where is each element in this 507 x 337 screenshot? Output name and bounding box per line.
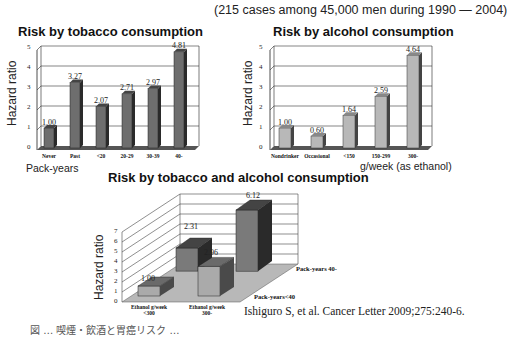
y-tick: 1	[259, 123, 263, 131]
y-tick: 4	[114, 257, 118, 265]
category-line: 300-	[185, 310, 229, 316]
bar-occasional	[311, 133, 326, 148]
bar-20-29	[122, 91, 135, 148]
series-label-pack-years-40plus: Pack-years 40-	[296, 265, 337, 272]
y-axis-label-tobacco: Hazard ratio	[5, 61, 19, 126]
y-tick: 1	[27, 123, 31, 131]
bar-30-39	[148, 86, 161, 148]
chart-title-alcohol: Risk by alcohol consumption	[273, 24, 454, 39]
y-tick: 2	[259, 103, 263, 111]
plot-area-tobacco	[33, 44, 203, 154]
category-label: 150-299	[366, 153, 396, 159]
bar-150-299	[375, 93, 390, 148]
y-axis-label-combined: Hazard ratio	[92, 235, 106, 300]
y-tick: 5	[259, 43, 263, 51]
value-label: 3.27	[60, 72, 90, 81]
citation: Ishiguro S, et al. Cancer Letter 2009;27…	[244, 305, 465, 317]
y-tick: 0	[114, 297, 118, 305]
y-tick: 0	[27, 143, 31, 151]
category-label: Ethanol g/week <300	[127, 304, 171, 316]
y-tick: 6	[114, 237, 118, 245]
bar-py40-eth-300plus	[236, 200, 272, 271]
bar-nondrinker	[279, 125, 294, 148]
y-axis-label-alcohol: Hazard ratio	[241, 61, 255, 126]
value-label: 2.07	[86, 96, 116, 105]
category-label: 40-	[164, 153, 194, 159]
value-label: 2.31	[176, 222, 206, 231]
bar-40plus	[174, 49, 187, 148]
y-tick: 4	[27, 63, 31, 71]
value-label: 2.96	[196, 248, 226, 257]
bar-lt150	[343, 112, 358, 148]
value-label: 1.64	[334, 105, 364, 114]
y-tick: 3	[114, 267, 118, 275]
bar-never	[44, 125, 57, 148]
plot-area-alcohol	[266, 44, 436, 154]
y-tick: 3	[27, 83, 31, 91]
value-label: 1.00	[270, 118, 300, 127]
bar-pylt40-eth-300plus	[198, 257, 234, 296]
category-line: <300	[127, 310, 171, 316]
y-tick: 3	[259, 83, 263, 91]
x-axis-label-tobacco: Pack-years	[26, 162, 79, 174]
y-tick: 7	[114, 227, 118, 235]
value-label: 1.00	[34, 118, 64, 127]
x-axis-label-alcohol: g/week (as ethanol)	[360, 160, 452, 172]
value-label: 1.00	[133, 274, 163, 283]
chart-title-tobacco: Risk by tobacco consumption	[18, 24, 203, 39]
y-tick: 0	[259, 143, 263, 151]
value-label: 4.64	[398, 45, 428, 54]
bar-300plus	[407, 52, 422, 148]
y-tick: 5	[114, 247, 118, 255]
bar-lt20	[96, 104, 109, 148]
value-label: 2.97	[138, 78, 168, 87]
bar-past	[70, 80, 83, 148]
study-note: (215 cases among 45,000 men during 1990 …	[214, 3, 507, 17]
series-label-pack-years-lt40: Pack-years<40	[254, 293, 295, 300]
y-tick: 1	[114, 287, 118, 295]
y-tick: 4	[259, 63, 263, 71]
value-label: 2.59	[366, 86, 396, 95]
y-tick: 2	[114, 277, 118, 285]
chart-title-combined: Risk by tobacco and alcohol consumption	[108, 170, 369, 185]
category-label: Occasional	[302, 153, 332, 159]
value-label: 6.12	[238, 191, 268, 200]
value-label: 4.81	[164, 41, 194, 50]
figure-caption-cropped: 図 … 喫煙・飲酒と胃癌リスク …	[30, 322, 180, 337]
category-label: Nondrinker	[270, 153, 300, 159]
category-label: 300-	[398, 153, 428, 159]
y-tick: 5	[27, 43, 31, 51]
value-label: 0.60	[302, 126, 332, 135]
y-tick: 2	[27, 103, 31, 111]
category-label: <150	[334, 153, 364, 159]
category-label: Ethanol g/week 300-	[185, 304, 229, 316]
